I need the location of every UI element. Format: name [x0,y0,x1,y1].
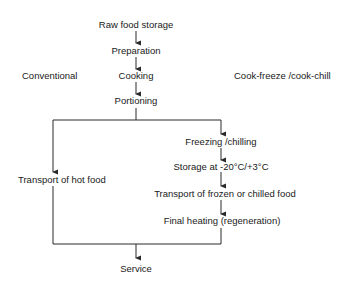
node-storage-temperature: Storage at -20°C/+3°C [174,162,269,172]
heading-conventional: Conventional [22,71,77,81]
node-service: Service [120,264,152,274]
node-raw-food-storage: Raw food storage [99,20,173,30]
node-transport-hot-food: Transport of hot food [18,175,106,185]
node-preparation: Preparation [111,46,160,56]
node-transport-frozen-chilled: Transport of frozen or chilled food [154,189,296,199]
node-freezing-chilling: Freezing /chilling [185,137,256,147]
flow-diagram: Raw food storage Preparation Cooking Por… [0,0,351,286]
node-final-heating: Final heating (regeneration) [164,216,281,226]
node-cooking: Cooking [119,71,154,81]
connector-lines [0,0,351,286]
node-portioning: Portioning [115,96,158,106]
heading-cook-freeze-cook-chill: Cook-freeze /cook-chill [234,71,331,81]
